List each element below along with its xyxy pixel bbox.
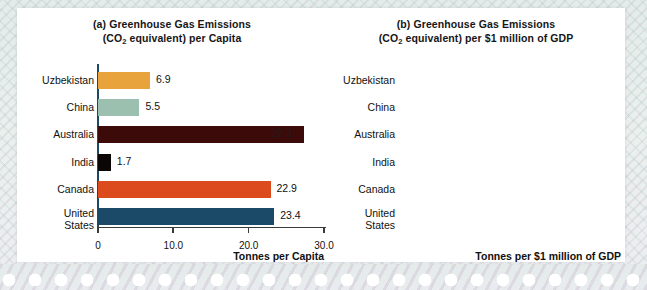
x-axis-tick [248, 227, 250, 233]
x-axis-tick-label: 0 [95, 240, 101, 251]
bar-value-label: 6.9 [156, 73, 171, 85]
bar-value-label: 23.4 [280, 209, 300, 221]
category-label-india: India [319, 157, 395, 169]
category-label-canada: Canada [319, 184, 395, 196]
panel-a-title-rest: equivalent) per Capita [126, 32, 241, 44]
panel-a-title-co: (CO [103, 32, 123, 44]
panel-b-title-line2: (CO2 equivalent) per $1 million of GDP [327, 32, 625, 47]
panel-a-title-line1: (a) Greenhouse Gas Emissions [93, 18, 251, 30]
bar-value-label: 1.7 [117, 155, 132, 167]
bar-value-label: 5.5 [145, 100, 160, 112]
panel-a-x-axis-label: Tonnes per Capita [233, 250, 324, 262]
x-axis-tick-label: 10.0 [164, 240, 183, 251]
category-label-china: China [10, 102, 94, 114]
panel-b-title-line1: (b) Greenhouse Gas Emissions [397, 18, 556, 30]
figure-page: (a) Greenhouse Gas Emissions (CO2 equiva… [0, 0, 647, 290]
panel-a-title-subscript: 2 [122, 37, 126, 46]
bar-row: 23.4 [98, 208, 324, 225]
x-axis-tick [172, 227, 174, 233]
category-label-australia: Australia [10, 129, 94, 141]
scallop-perforation-dots [0, 271, 647, 288]
panel-b-title-subscript: 2 [398, 37, 402, 46]
bar-canada [98, 181, 271, 198]
panel-a-title: (a) Greenhouse Gas Emissions (CO2 equiva… [17, 18, 327, 46]
panel-b-title-rest: equivalent) per $1 million of GDP [402, 32, 573, 44]
category-label-uzbekistan: Uzbekistan [319, 75, 395, 87]
bar-row: 5.5 [98, 99, 324, 116]
bar-india [98, 154, 111, 171]
panel-a-plot-area: 6.95.527.31.722.923.4010.020.030.0 [98, 64, 324, 227]
chart-card: (a) Greenhouse Gas Emissions (CO2 equiva… [17, 8, 625, 262]
panel-a-title-line2: (CO2 equivalent) per Capita [17, 32, 327, 47]
x-axis-tick [97, 227, 99, 233]
chart-panel-b: (b) Greenhouse Gas Emissions (CO2 equiva… [327, 8, 625, 262]
chart-panel-a: (a) Greenhouse Gas Emissions (CO2 equiva… [17, 8, 327, 262]
bar-united-states [98, 208, 274, 225]
category-label-canada: Canada [10, 184, 94, 196]
panel-b-title-co: (CO [379, 32, 399, 44]
bar-row: 6.9 [98, 72, 324, 89]
category-label-india: India [10, 157, 94, 169]
category-label-australia: Australia [319, 129, 395, 141]
category-label-united-states: United States [319, 208, 395, 231]
bar-value-label: 27.3 [272, 127, 292, 139]
bar-china [98, 99, 139, 116]
category-label-united-states: United States [10, 208, 94, 231]
bar-value-label: 22.9 [277, 182, 297, 194]
category-label-uzbekistan: Uzbekistan [10, 75, 94, 87]
panel-a-x-axis [97, 227, 326, 229]
category-label-china: China [319, 102, 395, 114]
panel-b-x-axis-label: Tonnes per $1 million of GDP [475, 250, 621, 262]
bar-row: 22.9 [98, 181, 324, 198]
bar-row: 27.3 [98, 126, 324, 143]
bar-uzbekistan [98, 72, 150, 89]
bar-row: 1.7 [98, 154, 324, 171]
panel-b-title: (b) Greenhouse Gas Emissions (CO2 equiva… [327, 18, 625, 46]
scalloped-edge-strip [0, 264, 647, 290]
